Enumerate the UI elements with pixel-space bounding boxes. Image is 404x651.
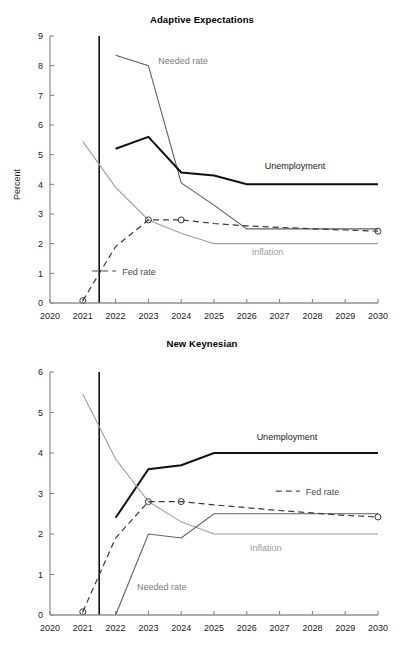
annotation-needed-rate: Needed rate (158, 56, 208, 66)
series-line-needed-rate (116, 55, 378, 229)
figure-container: Adaptive Expectations Percent 0123456789… (0, 0, 404, 651)
series-line-inflation (83, 394, 378, 534)
x-axis-tick-label: 2022 (106, 311, 126, 321)
x-axis-tick-label: 2024 (171, 623, 191, 633)
x-axis-tick-label: 2028 (302, 311, 322, 321)
y-axis-tick-label: 1 (38, 269, 43, 279)
x-axis-tick-label: 2026 (237, 623, 257, 633)
y-axis-tick-label: 5 (38, 150, 43, 160)
y-axis-tick-label: 4 (38, 180, 43, 190)
series-line-fed-rate (83, 220, 378, 301)
x-axis-tick-label: 2030 (368, 623, 388, 633)
y-axis-tick-label: 1 (38, 570, 43, 580)
x-axis-tick-label: 2027 (270, 311, 290, 321)
x-axis-tick-label: 2026 (237, 311, 257, 321)
y-axis-tick-label: 6 (38, 367, 43, 377)
y-axis-tick-label: 5 (38, 408, 43, 418)
series-line-fed-rate (83, 502, 378, 612)
series-line-unemployment (116, 453, 378, 518)
y-axis-tick-label: 2 (38, 529, 43, 539)
y-axis-tick-label: 4 (38, 448, 43, 458)
x-axis-tick-label: 2020 (40, 311, 60, 321)
chart-panel-adaptive-expectations: Adaptive Expectations Percent 0123456789… (0, 0, 404, 330)
chart-panel-new-keynesian: New Keynesian Percent 012345620202021202… (0, 330, 404, 651)
annotation-fed-rate: Fed rate (122, 267, 156, 277)
x-axis-tick-label: 2023 (138, 623, 158, 633)
y-axis-tick-label: 7 (38, 91, 43, 101)
annotation-unemployment: Unemployment (257, 432, 318, 442)
annotation-inflation: Inflation (252, 247, 284, 257)
x-axis-tick-label: 2022 (106, 623, 126, 633)
x-axis-tick-label: 2021 (73, 311, 93, 321)
chart-svg-adaptive-expectations: 0123456789202020212022202320242025202620… (0, 0, 404, 330)
x-axis-tick-label: 2029 (335, 623, 355, 633)
annotation-fed-rate: Fed rate (306, 487, 340, 497)
x-axis-tick-label: 2023 (138, 311, 158, 321)
chart-svg-new-keynesian: 0123456202020212022202320242025202620272… (0, 330, 404, 651)
annotation-needed-rate: Needed rate (137, 582, 187, 592)
y-axis-tick-label: 3 (38, 209, 43, 219)
annotation-inflation: Inflation (250, 543, 282, 553)
series-line-needed-rate (116, 514, 378, 615)
x-axis-tick-label: 2020 (40, 623, 60, 633)
annotation-unemployment: Unemployment (265, 161, 326, 171)
x-axis-tick-label: 2027 (270, 623, 290, 633)
y-axis-tick-label: 0 (38, 298, 43, 308)
x-axis-tick-label: 2025 (204, 311, 224, 321)
y-axis-tick-label: 3 (38, 489, 43, 499)
x-axis-tick-label: 2025 (204, 623, 224, 633)
y-axis-tick-label: 9 (38, 31, 43, 41)
series-marker (375, 514, 381, 520)
x-axis-tick-label: 2021 (73, 623, 93, 633)
x-axis-tick-label: 2024 (171, 311, 191, 321)
x-axis-tick-label: 2030 (368, 311, 388, 321)
y-axis-tick-label: 6 (38, 120, 43, 130)
y-axis-tick-label: 0 (38, 610, 43, 620)
series-line-unemployment (116, 137, 378, 184)
y-axis-tick-label: 2 (38, 239, 43, 249)
y-axis-tick-label: 8 (38, 61, 43, 71)
x-axis-tick-label: 2029 (335, 311, 355, 321)
x-axis-tick-label: 2028 (302, 623, 322, 633)
